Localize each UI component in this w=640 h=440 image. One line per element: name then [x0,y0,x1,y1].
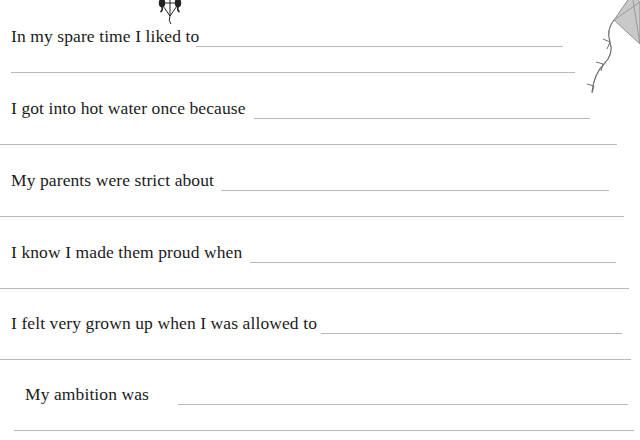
prompt-row [0,408,640,434]
prompt-label: I felt very grown up when I was allowed … [11,313,317,333]
prompt-row [0,122,640,148]
prompt-row [0,266,640,292]
answer-line[interactable] [196,46,563,47]
prompt-row [0,337,640,363]
prompt-row: My ambition was [0,382,640,408]
journal-page: In my spare time I liked to I got into h… [0,0,640,440]
prompt-grown-up: I felt very grown up when I was allowed … [0,311,640,363]
prompt-row [0,194,640,220]
prompt-ambition: My ambition was [0,382,640,434]
answer-line[interactable] [0,359,631,360]
answer-line[interactable] [0,144,617,145]
prompt-spare-time: In my spare time I liked to [0,24,640,76]
answer-line[interactable] [221,190,609,191]
prompt-label: I got into hot water once because [11,98,246,118]
answer-line[interactable] [0,216,624,217]
prompt-row: I got into hot water once because [0,96,640,122]
answer-line[interactable] [254,118,590,119]
answer-line[interactable] [11,72,575,73]
answer-line[interactable] [321,333,622,334]
answer-line[interactable] [250,262,616,263]
prompt-row [0,50,640,76]
prompt-hot-water: I got into hot water once because [0,96,640,148]
prompt-row: I know I made them proud when [0,240,640,266]
prompt-row: My parents were strict about [0,168,640,194]
prompt-made-them-proud: I know I made them proud when [0,240,640,292]
prompt-parents-strict: My parents were strict about [0,168,640,220]
answer-line[interactable] [14,430,634,431]
answer-line[interactable] [0,288,629,289]
answer-line[interactable] [178,404,628,405]
prompt-label: My parents were strict about [11,170,214,190]
prompt-label: My ambition was [25,384,149,404]
prompt-row: I felt very grown up when I was allowed … [0,311,640,337]
prompt-label: I know I made them proud when [11,242,242,262]
prompt-row: In my spare time I liked to [0,24,640,50]
prompt-label: In my spare time I liked to [11,26,199,46]
